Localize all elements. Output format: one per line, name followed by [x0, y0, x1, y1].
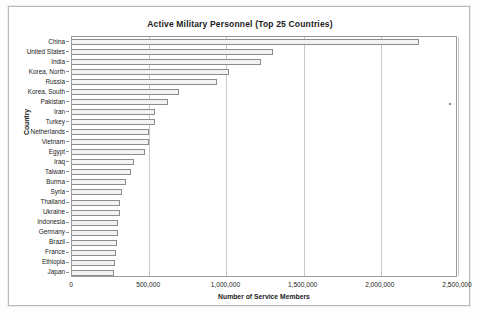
chart-title: Active Military Personnel (Top 25 Countr…: [9, 19, 471, 29]
chart-frame: Active Military Personnel (Top 25 Countr…: [8, 6, 470, 306]
y-tick-label: United States: [9, 46, 69, 56]
bar-row: [72, 127, 456, 137]
y-tick-label: Vietnam: [9, 136, 69, 146]
y-tick-mark: [66, 252, 69, 253]
y-tick-mark: [66, 61, 69, 62]
bar-row: [72, 248, 456, 258]
y-tick-mark: [66, 41, 69, 42]
y-tick-mark: [66, 71, 69, 72]
y-tick-label: Iraq: [9, 156, 69, 166]
gridline-2500000: [458, 37, 459, 276]
bar-taiwan: [72, 169, 131, 175]
y-tick-mark: [66, 272, 69, 273]
y-tick-label: Iran: [9, 106, 69, 116]
bar-turkey: [72, 119, 155, 125]
bar-row: [72, 57, 456, 67]
bar-korea-north: [72, 69, 229, 75]
y-tick-label: Pakistan: [9, 96, 69, 106]
bar-row: [72, 117, 456, 127]
bar-row: [72, 268, 456, 278]
y-tick-label: Egypt: [9, 146, 69, 156]
y-tick-mark: [66, 101, 69, 102]
screenshot-root: Active Military Personnel (Top 25 Countr…: [0, 0, 480, 318]
bar-row: [72, 177, 456, 187]
bar-japan: [72, 270, 114, 276]
bar-row: [72, 97, 456, 107]
y-tick-mark: [66, 161, 69, 162]
y-tick-label: Ukraine: [9, 207, 69, 217]
y-tick-label: Korea, North: [9, 66, 69, 76]
bar-row: [72, 198, 456, 208]
y-tick-label: Germany: [9, 227, 69, 237]
y-tick-mark: [66, 141, 69, 142]
bar-row: [72, 47, 456, 57]
y-tick-label: Russia: [9, 76, 69, 86]
y-tick-label: Syria: [9, 186, 69, 196]
y-tick-label: France: [9, 247, 69, 257]
y-tick-label: Thailand: [9, 197, 69, 207]
y-tick-mark: [66, 181, 69, 182]
bar-pakistan: [72, 99, 168, 105]
y-tick-label: India: [9, 56, 69, 66]
y-tick-label: China: [9, 36, 69, 46]
bar-ukraine: [72, 210, 120, 216]
y-tick-mark: [66, 242, 69, 243]
y-tick-mark: [66, 202, 69, 203]
bar-row: [72, 258, 456, 268]
bar-iran: [72, 109, 155, 115]
bar-row: [72, 167, 456, 177]
y-tick-label: Ethiopia: [9, 257, 69, 267]
bar-row: [72, 187, 456, 197]
x-tick-label: 1,500,000: [288, 281, 317, 288]
bar-egypt: [72, 149, 145, 155]
bar-thailand: [72, 200, 120, 206]
y-tick-mark: [66, 111, 69, 112]
y-tick-label: Taiwan: [9, 166, 69, 176]
bar-ethiopia: [72, 260, 115, 266]
bar-korea-south: [72, 89, 179, 95]
y-tick-mark: [66, 121, 69, 122]
bar-indonesia: [72, 220, 118, 226]
bar-row: [72, 238, 456, 248]
y-tick-mark: [66, 81, 69, 82]
y-tick-label: Netherlands: [9, 126, 69, 136]
bar-brazil: [72, 240, 117, 246]
bar-germany: [72, 230, 118, 236]
bar-russia: [72, 79, 217, 85]
y-tick-label: Brazil: [9, 237, 69, 247]
bar-row: [72, 208, 456, 218]
bar-row: [72, 228, 456, 238]
bar-row: [72, 67, 456, 77]
bar-burma: [72, 179, 126, 185]
y-tick-mark: [66, 191, 69, 192]
x-tick-label: 2,500,000: [442, 281, 471, 288]
bar-row: [72, 37, 456, 47]
bar-row: [72, 147, 456, 157]
y-tick-label: Korea, South: [9, 86, 69, 96]
y-tick-mark: [66, 151, 69, 152]
y-tick-label: Japan: [9, 267, 69, 277]
x-tick-label: 500,000: [136, 281, 160, 288]
plot-area: [71, 36, 457, 277]
y-tick-mark: [66, 262, 69, 263]
bar-netherlands: [72, 129, 149, 135]
y-tick-mark: [66, 212, 69, 213]
y-tick-mark: [66, 91, 69, 92]
y-tick-label: Burma: [9, 176, 69, 186]
bar-series: [72, 37, 456, 276]
bar-vietnam: [72, 139, 149, 145]
y-tick-mark: [66, 222, 69, 223]
bar-row: [72, 157, 456, 167]
y-tick-mark: [66, 171, 69, 172]
bar-row: [72, 87, 456, 97]
y-tick-label: Indonesia: [9, 217, 69, 227]
bar-row: [72, 218, 456, 228]
y-tick-mark: [66, 232, 69, 233]
x-tick-label: 0: [69, 281, 73, 288]
bar-row: [72, 107, 456, 117]
bar-china: [72, 39, 419, 45]
x-tick-label: 1,000,000: [211, 281, 240, 288]
y-tick-mark: [66, 131, 69, 132]
y-axis-labels: ChinaUnited StatesIndiaKorea, NorthRussi…: [9, 36, 69, 277]
bar-india: [72, 59, 261, 65]
